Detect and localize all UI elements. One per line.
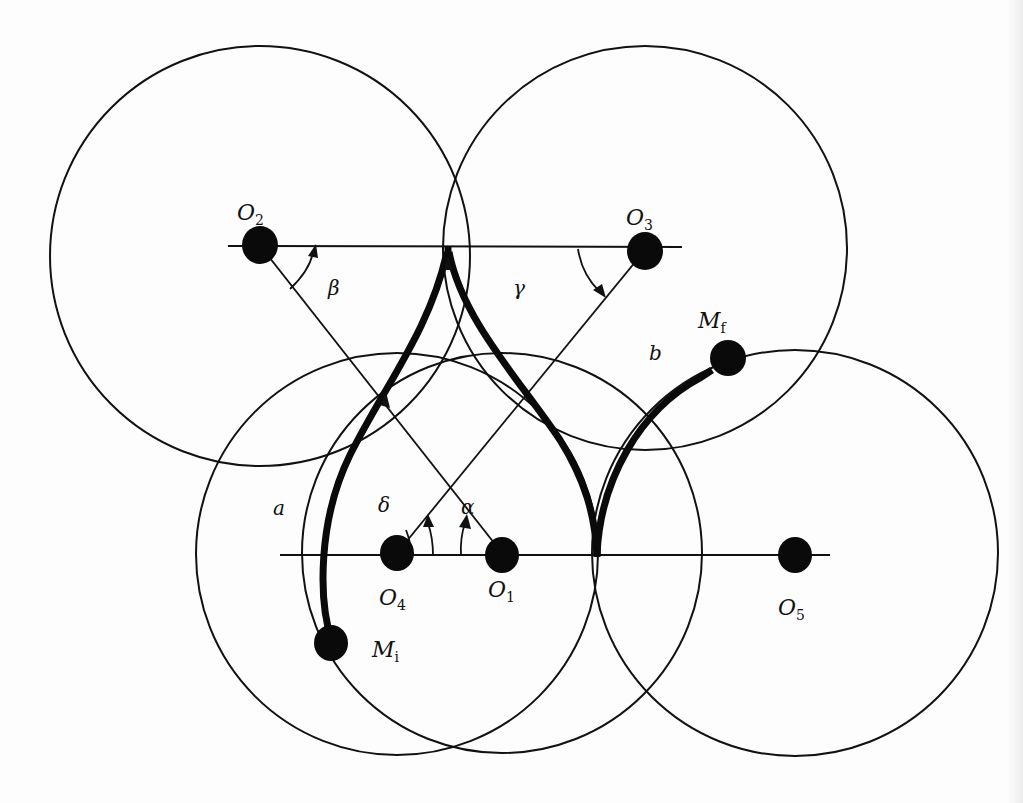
label-o2: O2 bbox=[237, 200, 264, 228]
node-mf bbox=[710, 340, 746, 376]
path-segment-a bbox=[323, 252, 447, 642]
path-planning-diagram: O2 O3 O4 O1 O5 Mi Mf β γ δ α a b bbox=[0, 0, 1023, 803]
gamma-arc bbox=[578, 249, 600, 292]
label-beta: β bbox=[327, 276, 340, 300]
label-mi: Mi bbox=[371, 637, 400, 665]
node-o3 bbox=[627, 232, 663, 270]
node-o4 bbox=[380, 535, 414, 571]
label-alpha: α bbox=[461, 495, 475, 519]
delta-arc bbox=[428, 523, 433, 555]
label-o4: O4 bbox=[379, 585, 406, 613]
beta-arc bbox=[290, 252, 313, 289]
label-segment-b: b bbox=[649, 341, 662, 365]
scanned-page: O2 O3 O4 O1 O5 Mi Mf β γ δ α a b bbox=[0, 0, 1023, 803]
label-mf: Mf bbox=[697, 308, 728, 336]
node-mi bbox=[314, 625, 348, 661]
label-o5: O5 bbox=[778, 595, 805, 623]
label-segment-a: a bbox=[273, 496, 285, 520]
label-delta: δ bbox=[378, 493, 390, 517]
label-o1: O1 bbox=[488, 577, 515, 605]
label-o3: O3 bbox=[626, 205, 653, 233]
upper-axis-line bbox=[228, 246, 682, 247]
node-o5 bbox=[778, 537, 812, 573]
robot-path bbox=[323, 246, 712, 642]
node-o2 bbox=[242, 226, 278, 264]
circles bbox=[50, 46, 998, 756]
node-o1 bbox=[485, 537, 519, 573]
label-gamma: γ bbox=[513, 276, 525, 300]
